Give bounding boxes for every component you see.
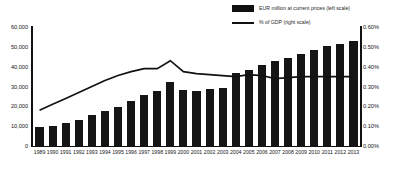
x-axis <box>31 146 362 147</box>
y-axis-left-tick-label: 50,000 <box>11 44 28 50</box>
y-axis-left-tick-label: 60,000 <box>11 24 28 30</box>
y-axis-right-tick-label: 0.50% <box>363 44 379 50</box>
y-axis-right-tick-label: 0.20% <box>363 103 379 109</box>
x-axis-tick-label: 2013 <box>345 149 362 156</box>
y-axis-right-tick-label: 0.00% <box>363 143 379 149</box>
legend-item-bars: EUR million at current prices (left scal… <box>232 3 392 14</box>
y-axis-left-tick-label: 0 <box>25 143 28 149</box>
legend-label-line: % of GDP (right scale) <box>259 19 311 26</box>
legend-line-swatch-icon <box>232 22 254 24</box>
legend-bar-swatch-icon <box>232 5 254 12</box>
line-series <box>33 27 360 146</box>
x-axis-labels: 1989199019911992199319941995199619971998… <box>33 149 360 161</box>
y-axis-right <box>360 26 362 147</box>
y-axis-right-tick-label: 0.30% <box>363 84 379 90</box>
y-axis-right-tick-label: 0.40% <box>363 64 379 70</box>
y-axis-right-tick-label: 0.60% <box>363 24 379 30</box>
y-axis-left-tick-label: 10,000 <box>11 123 28 129</box>
legend-label-bars: EUR million at current prices (left scal… <box>259 5 350 12</box>
y-axis-right-tick-label: 0.10% <box>363 123 379 129</box>
y-axis-left-tick-label: 30,000 <box>11 84 28 90</box>
plot-area <box>33 27 360 146</box>
y-axis-left-tick-label: 20,000 <box>11 103 28 109</box>
y-axis-left-tick-label: 40,000 <box>11 64 28 70</box>
chart-container: EUR million at current prices (left scal… <box>0 0 396 170</box>
